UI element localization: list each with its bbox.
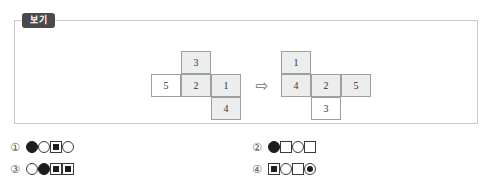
circle-filled-icon bbox=[38, 163, 50, 175]
circle-open-icon bbox=[280, 163, 292, 175]
option-glyph-row bbox=[268, 141, 316, 153]
panel-badge-label: 보기 bbox=[22, 13, 55, 28]
answer-options: ① ② ③ ④ bbox=[0, 134, 486, 187]
circle-open-icon bbox=[292, 141, 304, 153]
circle-open-icon bbox=[26, 163, 38, 175]
right-arrow-icon: ⇨ bbox=[250, 75, 274, 97]
option-number: ④ bbox=[252, 164, 262, 175]
right-net-cell: 4 bbox=[281, 74, 311, 97]
square-in-square-icon bbox=[62, 163, 74, 175]
circle-filled-icon bbox=[268, 141, 280, 153]
answer-option-1[interactable]: ① bbox=[10, 138, 74, 156]
option-glyph-row bbox=[268, 163, 316, 175]
option-number: ② bbox=[252, 142, 262, 153]
boxed-example-panel: 3 5 2 1 4 ⇨ 1 4 2 5 3 bbox=[14, 20, 478, 124]
cube-net-figures: 3 5 2 1 4 ⇨ 1 4 2 5 3 bbox=[133, 51, 393, 131]
option-glyph-row bbox=[26, 141, 74, 153]
option-number: ③ bbox=[10, 164, 20, 175]
square-in-square-icon bbox=[50, 141, 62, 153]
left-cube-net: 3 5 2 1 4 bbox=[151, 51, 251, 131]
circle-open-icon bbox=[62, 141, 74, 153]
square-in-square-icon bbox=[50, 163, 62, 175]
circle-open-icon bbox=[38, 141, 50, 153]
left-net-cell: 2 bbox=[181, 74, 211, 97]
answer-option-3[interactable]: ③ bbox=[10, 160, 74, 178]
right-net-cell: 1 bbox=[281, 51, 311, 74]
answer-option-2[interactable]: ② bbox=[252, 138, 316, 156]
square-in-square-icon bbox=[268, 163, 280, 175]
left-net-cell: 5 bbox=[151, 74, 181, 97]
square-open-icon bbox=[292, 163, 304, 175]
option-glyph-row bbox=[26, 163, 74, 175]
circle-filled-icon bbox=[26, 141, 38, 153]
right-net-cell: 2 bbox=[311, 74, 341, 97]
right-cube-net: 1 4 2 5 3 bbox=[281, 51, 381, 131]
option-number: ① bbox=[10, 142, 20, 153]
left-net-cell: 1 bbox=[211, 74, 241, 97]
right-net-cell: 5 bbox=[341, 74, 371, 97]
answer-option-4[interactable]: ④ bbox=[252, 160, 316, 178]
right-net-cell: 3 bbox=[311, 97, 341, 120]
circle-in-circle-icon bbox=[304, 163, 316, 175]
square-open-icon bbox=[304, 141, 316, 153]
square-open-icon bbox=[280, 141, 292, 153]
left-net-cell: 4 bbox=[211, 97, 241, 120]
left-net-cell: 3 bbox=[181, 51, 211, 74]
clipped-top-text bbox=[0, 0, 486, 6]
